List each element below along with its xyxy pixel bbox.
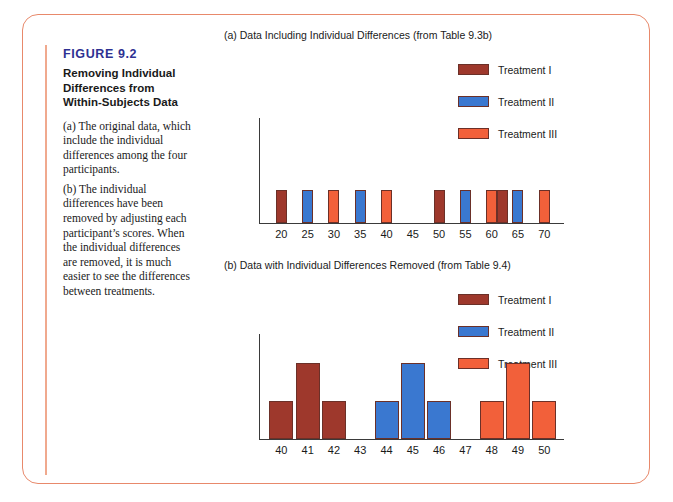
panel-b-x-axis [259, 439, 564, 440]
legend-item-treatment-1: Treatment I [458, 294, 557, 305]
bar [381, 190, 392, 223]
panel-b: (b) Data with Individual Differences Rem… [216, 259, 636, 474]
legend-swatch-treatment-1 [458, 294, 489, 305]
bar [276, 190, 287, 223]
x-axis-tick: 70 [530, 228, 558, 240]
x-axis-tick: 60 [478, 228, 506, 240]
bar [497, 190, 508, 223]
x-axis-tick: 50 [425, 228, 453, 240]
bar [355, 190, 366, 223]
panel-b-plot: 4041424344454647484950 [259, 334, 564, 459]
x-axis-tick: 30 [320, 228, 348, 240]
panel-a-y-axis [259, 118, 260, 223]
bar [480, 401, 504, 439]
legend-label-treatment-2: Treatment II [498, 96, 554, 108]
bar [539, 190, 550, 223]
figure-caption-b: (b) The individual differences have been… [63, 182, 193, 299]
x-axis-tick: 25 [294, 228, 322, 240]
legend-swatch-treatment-2 [458, 96, 489, 107]
bar [512, 190, 523, 223]
legend-item-treatment-2: Treatment II [458, 96, 557, 107]
bar [532, 401, 556, 439]
bar [296, 363, 320, 439]
bar [506, 363, 530, 439]
x-axis-tick: 41 [294, 444, 322, 456]
panel-a-plot: 2025303540455055606570 [259, 118, 564, 243]
legend-swatch-treatment-1 [458, 64, 489, 75]
legend-label-treatment-1: Treatment I [498, 294, 551, 306]
x-axis-tick: 42 [320, 444, 348, 456]
bar [434, 190, 445, 223]
bar [269, 401, 293, 439]
panel-a-x-axis [259, 223, 564, 224]
x-axis-tick: 49 [504, 444, 532, 456]
figure-caption: FIGURE 9.2 Removing Individual Differenc… [63, 47, 193, 427]
bar [427, 401, 451, 439]
x-axis-tick: 44 [373, 444, 401, 456]
bar [486, 190, 497, 223]
x-axis-tick: 20 [267, 228, 295, 240]
x-axis-tick: 40 [373, 228, 401, 240]
x-axis-tick: 45 [399, 228, 427, 240]
x-axis-tick: 45 [399, 444, 427, 456]
legend-label-treatment-1: Treatment I [498, 64, 551, 76]
x-axis-tick: 47 [451, 444, 479, 456]
bar [460, 190, 471, 223]
x-axis-tick: 43 [346, 444, 374, 456]
x-axis-tick: 35 [346, 228, 374, 240]
bar [375, 401, 399, 439]
panel-b-title: (b) Data with Individual Differences Rem… [224, 259, 511, 271]
bar [328, 190, 339, 223]
figure-frame: FIGURE 9.2 Removing Individual Differenc… [22, 14, 650, 484]
x-axis-tick: 48 [478, 444, 506, 456]
figure-title: Removing Individual Differences from Wit… [63, 66, 193, 110]
figure-caption-a: (a) The original data, which include the… [63, 119, 193, 177]
x-axis-tick: 46 [425, 444, 453, 456]
bar [302, 190, 313, 223]
caption-divider [45, 45, 47, 475]
figure-number: FIGURE 9.2 [63, 47, 193, 61]
panel-b-y-axis [259, 334, 260, 439]
bar [401, 363, 425, 439]
bar [322, 401, 346, 439]
x-axis-tick: 50 [530, 444, 558, 456]
panel-a-title: (a) Data Including Individual Difference… [224, 29, 492, 41]
x-axis-tick: 55 [451, 228, 479, 240]
legend-item-treatment-1: Treatment I [458, 64, 557, 75]
panel-a: (a) Data Including Individual Difference… [216, 29, 636, 244]
x-axis-tick: 65 [504, 228, 532, 240]
x-axis-tick: 40 [267, 444, 295, 456]
